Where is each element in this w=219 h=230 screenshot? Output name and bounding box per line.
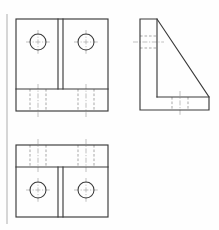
- side-view: [133, 19, 209, 116]
- bottom-view: [16, 139, 108, 217]
- top-view-hidden-lines: [30, 89, 94, 111]
- orthographic-drawing-canvas: [0, 0, 219, 230]
- top-view-center-lines: [26, 30, 98, 117]
- top-view-rib: [58, 19, 63, 89]
- bottom-view-hidden-lines: [30, 145, 94, 167]
- top-view-outline: [16, 19, 108, 111]
- bottom-view-center-lines: [26, 139, 98, 202]
- top-view: [16, 19, 108, 117]
- side-view-hidden-lines: [140, 36, 188, 110]
- bottom-view-rib: [58, 167, 63, 217]
- drawing-sheet: [0, 0, 219, 230]
- side-view-outline: [140, 19, 209, 110]
